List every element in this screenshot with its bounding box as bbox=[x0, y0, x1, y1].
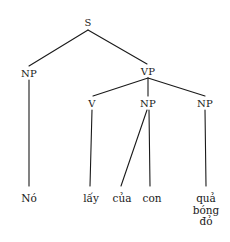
node-v: V bbox=[88, 98, 96, 109]
node-np-object1: NP bbox=[140, 98, 156, 109]
tree-edge-s-to-vp bbox=[88, 30, 147, 64]
tree-edge-v-to-lay bbox=[90, 110, 92, 186]
tree-edge-np-object1-to-cua bbox=[121, 110, 147, 186]
terminal-con: con bbox=[143, 193, 162, 205]
tree-edge-s-to-np-subject bbox=[29, 30, 88, 66]
node-np-object2: NP bbox=[197, 98, 213, 109]
node-s: S bbox=[84, 17, 91, 28]
terminal-cua: của bbox=[113, 193, 132, 205]
node-vp: VP bbox=[141, 66, 156, 77]
terminal-no: Nó bbox=[21, 193, 37, 205]
tree-edge-vp-to-v bbox=[93, 78, 148, 96]
terminal-line: đỏ bbox=[193, 216, 220, 228]
tree-edge-np-object1-to-con bbox=[149, 110, 150, 186]
syntax-tree-figure: S NP VP V NP NP Nó lấy của con quảbóngđỏ bbox=[0, 0, 230, 242]
tree-edge-np-object2-to-qua-bong-do bbox=[205, 110, 206, 186]
terminal-qua-bong-do: quảbóngđỏ bbox=[193, 193, 220, 228]
terminal-line: quả bbox=[193, 193, 220, 205]
tree-edge-vp-to-np-object2 bbox=[148, 78, 205, 96]
node-np-subject: NP bbox=[21, 68, 37, 79]
terminal-lay: lấy bbox=[83, 193, 99, 205]
